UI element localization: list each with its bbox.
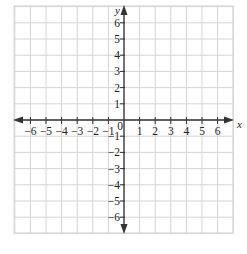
coordinate-plane: −6−5−4−3−2−10123456−6−5−4−3−2−1123456xy	[0, 0, 247, 254]
y-tick-label: −4	[108, 179, 120, 191]
x-axis-label: x	[236, 118, 242, 130]
x-tick-label: 2	[152, 125, 158, 137]
y-tick-label: 2	[114, 82, 120, 94]
x-tick-label: 6	[215, 125, 221, 137]
x-tick-label: −6	[24, 125, 36, 137]
y-tick-label: −6	[108, 211, 120, 223]
y-tick-label: −2	[108, 146, 120, 158]
x-tick-label: 1	[137, 125, 143, 137]
y-tick-label: −1	[108, 130, 120, 142]
x-tick-label: −4	[55, 125, 67, 137]
x-tick-label: 3	[168, 125, 174, 137]
y-tick-label: 6	[114, 17, 120, 29]
x-tick-label: 4	[184, 125, 190, 137]
x-tick-label: −2	[87, 125, 99, 137]
y-tick-label: 5	[114, 33, 120, 45]
y-tick-label: 1	[114, 98, 120, 110]
y-axis-label: y	[114, 4, 120, 16]
x-tick-label: −5	[40, 125, 52, 137]
y-tick-label: 3	[114, 65, 120, 77]
y-tick-label: 4	[114, 49, 120, 61]
y-tick-label: −5	[108, 195, 120, 207]
y-tick-label: −3	[108, 163, 120, 175]
x-tick-label: −3	[71, 125, 83, 137]
coordinate-grid-svg: −6−5−4−3−2−10123456−6−5−4−3−2−1123456xy	[0, 0, 247, 254]
x-tick-label: 5	[199, 125, 205, 137]
